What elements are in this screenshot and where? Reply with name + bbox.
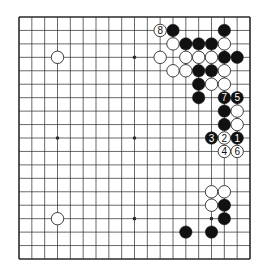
white-stone[interactable] — [218, 38, 230, 50]
star-point — [56, 136, 60, 140]
stone-disc — [218, 118, 230, 130]
move-number-label: 8 — [157, 25, 163, 36]
white-stone[interactable] — [180, 51, 192, 63]
white-stone[interactable] — [167, 38, 179, 50]
stone-disc — [192, 38, 204, 50]
stone-disc — [218, 105, 230, 117]
white-stone[interactable] — [180, 65, 192, 77]
white-stone[interactable] — [154, 51, 166, 63]
move-number-label: 1 — [234, 133, 240, 144]
black-stone[interactable] — [218, 24, 230, 36]
white-stone[interactable] — [205, 199, 217, 211]
star-point — [133, 217, 137, 221]
black-stone[interactable] — [205, 226, 217, 238]
stone-disc — [205, 199, 217, 211]
stone-disc — [192, 65, 204, 77]
black-stone[interactable]: 5 — [231, 91, 243, 103]
black-stone[interactable] — [167, 24, 179, 36]
stone-disc — [205, 38, 217, 50]
move-number-label: 7 — [222, 92, 228, 103]
stone-disc — [231, 105, 243, 117]
white-stone[interactable] — [167, 65, 179, 77]
star-point — [133, 56, 137, 60]
stone-disc — [167, 38, 179, 50]
white-stone[interactable]: 6 — [231, 145, 243, 157]
stone-disc — [218, 186, 230, 198]
stone-disc — [51, 212, 63, 224]
move-number-label: 5 — [234, 92, 240, 103]
stone-disc — [192, 78, 204, 90]
black-stone[interactable] — [205, 65, 217, 77]
white-stone[interactable] — [218, 186, 230, 198]
black-stone[interactable] — [218, 199, 230, 211]
move-number-label: 2 — [222, 133, 228, 144]
stone-disc — [154, 51, 166, 63]
white-stone[interactable]: 2 — [218, 132, 230, 144]
stone-disc — [218, 24, 230, 36]
black-stone[interactable] — [218, 51, 230, 63]
black-stone[interactable] — [180, 38, 192, 50]
white-stone[interactable]: 8 — [154, 24, 166, 36]
black-stone[interactable] — [231, 51, 243, 63]
stone-disc — [205, 78, 217, 90]
star-point — [210, 217, 214, 221]
star-point — [133, 136, 137, 140]
stone-disc — [180, 65, 192, 77]
white-stone[interactable] — [231, 105, 243, 117]
stone-disc — [218, 65, 230, 77]
move-number-label: 6 — [234, 146, 240, 157]
white-stone[interactable] — [51, 51, 63, 63]
stone-disc — [218, 51, 230, 63]
stone-disc — [231, 118, 243, 130]
stone-disc — [167, 24, 179, 36]
stone-disc — [192, 91, 204, 103]
black-stone[interactable]: 1 — [231, 132, 243, 144]
stone-disc — [180, 38, 192, 50]
black-stone[interactable] — [180, 226, 192, 238]
stone-disc — [205, 65, 217, 77]
black-stone[interactable] — [192, 78, 204, 90]
stone-disc — [218, 199, 230, 211]
white-stone[interactable] — [192, 51, 204, 63]
white-stone[interactable] — [51, 212, 63, 224]
white-stone[interactable]: 4 — [218, 145, 230, 157]
stone-disc — [205, 51, 217, 63]
stone-disc — [192, 51, 204, 63]
stone-disc — [205, 186, 217, 198]
black-stone[interactable]: 3 — [205, 132, 217, 144]
stone-disc — [218, 78, 230, 90]
black-stone[interactable] — [218, 105, 230, 117]
stone-disc — [218, 38, 230, 50]
white-stone[interactable] — [205, 186, 217, 198]
white-stone[interactable] — [218, 78, 230, 90]
stone-disc — [180, 51, 192, 63]
black-stone[interactable] — [205, 38, 217, 50]
black-stone[interactable]: 7 — [218, 91, 230, 103]
white-stone[interactable] — [231, 118, 243, 130]
white-stone[interactable] — [218, 65, 230, 77]
black-stone[interactable] — [218, 118, 230, 130]
black-stone[interactable] — [192, 91, 204, 103]
move-number-label: 3 — [209, 133, 215, 144]
white-stone[interactable] — [205, 51, 217, 63]
stone-disc — [205, 226, 217, 238]
black-stone[interactable] — [192, 65, 204, 77]
stone-disc — [218, 212, 230, 224]
move-number-label: 4 — [222, 146, 228, 157]
stone-disc — [180, 226, 192, 238]
stone-disc — [51, 51, 63, 63]
white-stone[interactable] — [205, 78, 217, 90]
stone-disc — [167, 65, 179, 77]
black-stone[interactable] — [218, 212, 230, 224]
stone-disc — [231, 51, 243, 63]
black-stone[interactable] — [192, 38, 204, 50]
go-board[interactable]: 75318246 — [0, 0, 269, 276]
